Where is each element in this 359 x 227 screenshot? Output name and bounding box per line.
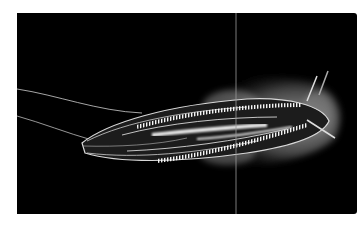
tentacle-lower xyxy=(17,116,92,140)
comb-jelly-illustration xyxy=(17,13,357,214)
photo-frame xyxy=(17,13,357,214)
tentacle-upper xyxy=(17,89,142,113)
